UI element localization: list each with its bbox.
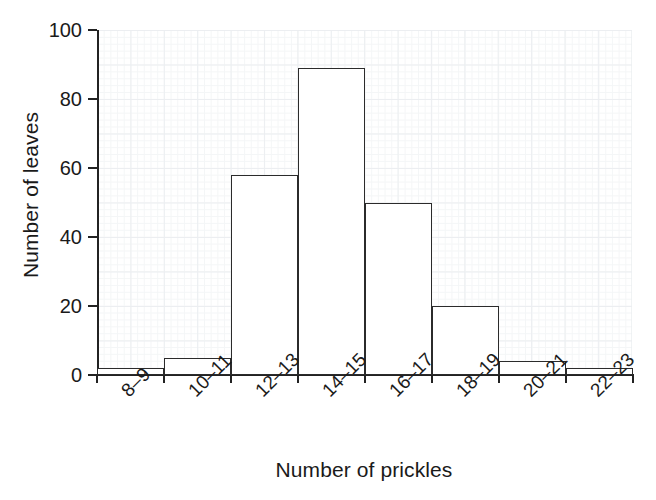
x-tick-mark [632, 376, 634, 383]
y-tick-label-text: 20 [28, 295, 82, 318]
y-tick-label: 60 [28, 156, 82, 180]
y-axis-title: Number of leaves [14, 5, 48, 385]
x-tick-mark [230, 376, 232, 383]
y-tick-label: 0 [28, 363, 82, 387]
bar [231, 175, 298, 375]
y-tick-label-text: 40 [28, 226, 82, 249]
y-tick-label: 40 [28, 225, 82, 249]
y-tick-mark [88, 29, 97, 31]
y-tick-mark [88, 236, 97, 238]
y-tick-label-text: 100 [28, 19, 82, 42]
x-axis-title: Number of prickles [96, 458, 632, 482]
y-tick-mark [88, 167, 97, 169]
y-tick-label: 80 [28, 87, 82, 111]
y-axis-line [97, 30, 99, 376]
x-tick-mark [498, 376, 500, 383]
x-tick-mark [163, 376, 165, 383]
y-tick-label-text: 60 [28, 157, 82, 180]
y-tick-label: 100 [28, 18, 82, 42]
y-tick-label: 20 [28, 294, 82, 318]
x-tick-mark [297, 376, 299, 383]
x-tick-mark [565, 376, 567, 383]
histogram-chart: Number of leaves 020406080100 8–910–1112… [0, 0, 656, 500]
x-tick-mark [96, 376, 98, 383]
y-tick-label-text: 0 [28, 364, 82, 387]
bar [298, 68, 365, 375]
y-tick-mark [88, 98, 97, 100]
y-tick-label-text: 80 [28, 88, 82, 111]
y-tick-mark [88, 305, 97, 307]
x-tick-mark [431, 376, 433, 383]
x-tick-mark [364, 376, 366, 383]
